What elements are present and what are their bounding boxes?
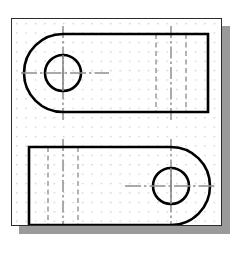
drawing-sheet [11, 18, 222, 226]
top-view-group [21, 26, 208, 120]
technical-drawing-geometry [12, 19, 222, 226]
drawing-page [0, 0, 239, 259]
bottom-view-center-lines [63, 139, 171, 226]
bottom-view-group [29, 139, 217, 226]
